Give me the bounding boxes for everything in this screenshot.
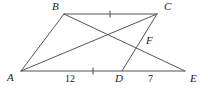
vertex-label-B: B xyxy=(52,1,59,12)
measure-label-DE: 7 xyxy=(148,74,153,84)
segment-group xyxy=(21,14,185,71)
segment-BE xyxy=(64,14,185,71)
segment-AC xyxy=(21,14,157,71)
measure-label-AD: 12 xyxy=(65,74,75,84)
vertex-label-E: E xyxy=(190,73,197,84)
tick-mark-group xyxy=(93,11,110,74)
vertex-label-C: C xyxy=(164,1,171,12)
geometry-canvas xyxy=(0,0,208,90)
geometry-figure: A B C D E F 12 7 xyxy=(0,0,208,90)
vertex-label-D: D xyxy=(115,73,123,84)
vertex-label-F: F xyxy=(146,35,153,46)
vertex-label-A: A xyxy=(7,72,14,83)
